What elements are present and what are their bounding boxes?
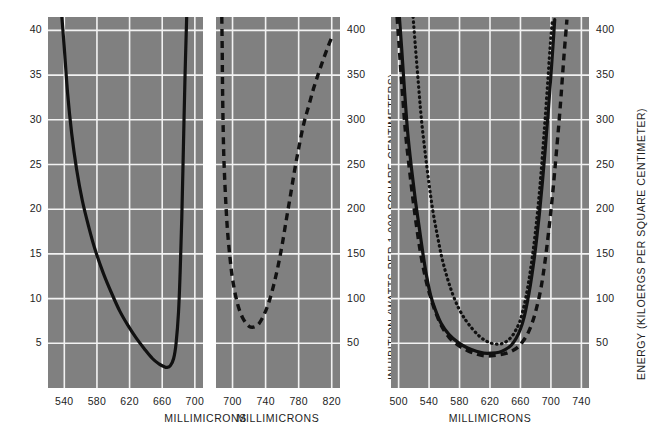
- figure-root: 540580620660700403530252015105GERMINATIO…: [0, 0, 650, 432]
- y-axis-title: ENERGY (KILOERGS PER SQUARE CENTIMETER): [635, 108, 647, 380]
- y-tick-label: 250: [596, 158, 638, 170]
- y-tick-label: 200: [596, 202, 638, 214]
- y-tick-label: 350: [596, 68, 638, 80]
- y-tick-label: 50: [596, 336, 638, 348]
- y-tick-label: 150: [596, 247, 638, 259]
- x-tick-label: 740: [559, 395, 603, 407]
- gridlines: [391, 17, 589, 388]
- plot-canvas: [0, 0, 650, 432]
- curve-solid: [399, 17, 554, 353]
- y-tick-label: 100: [596, 292, 638, 304]
- chart-panel-energy: 5005405806206607007404003503002502001501…: [0, 0, 650, 432]
- y-tick-label: 400: [596, 23, 638, 35]
- y-tick-label: 300: [596, 113, 638, 125]
- curve-dotted: [413, 17, 552, 344]
- x-axis-title: MILLIMICRONS: [351, 412, 629, 424]
